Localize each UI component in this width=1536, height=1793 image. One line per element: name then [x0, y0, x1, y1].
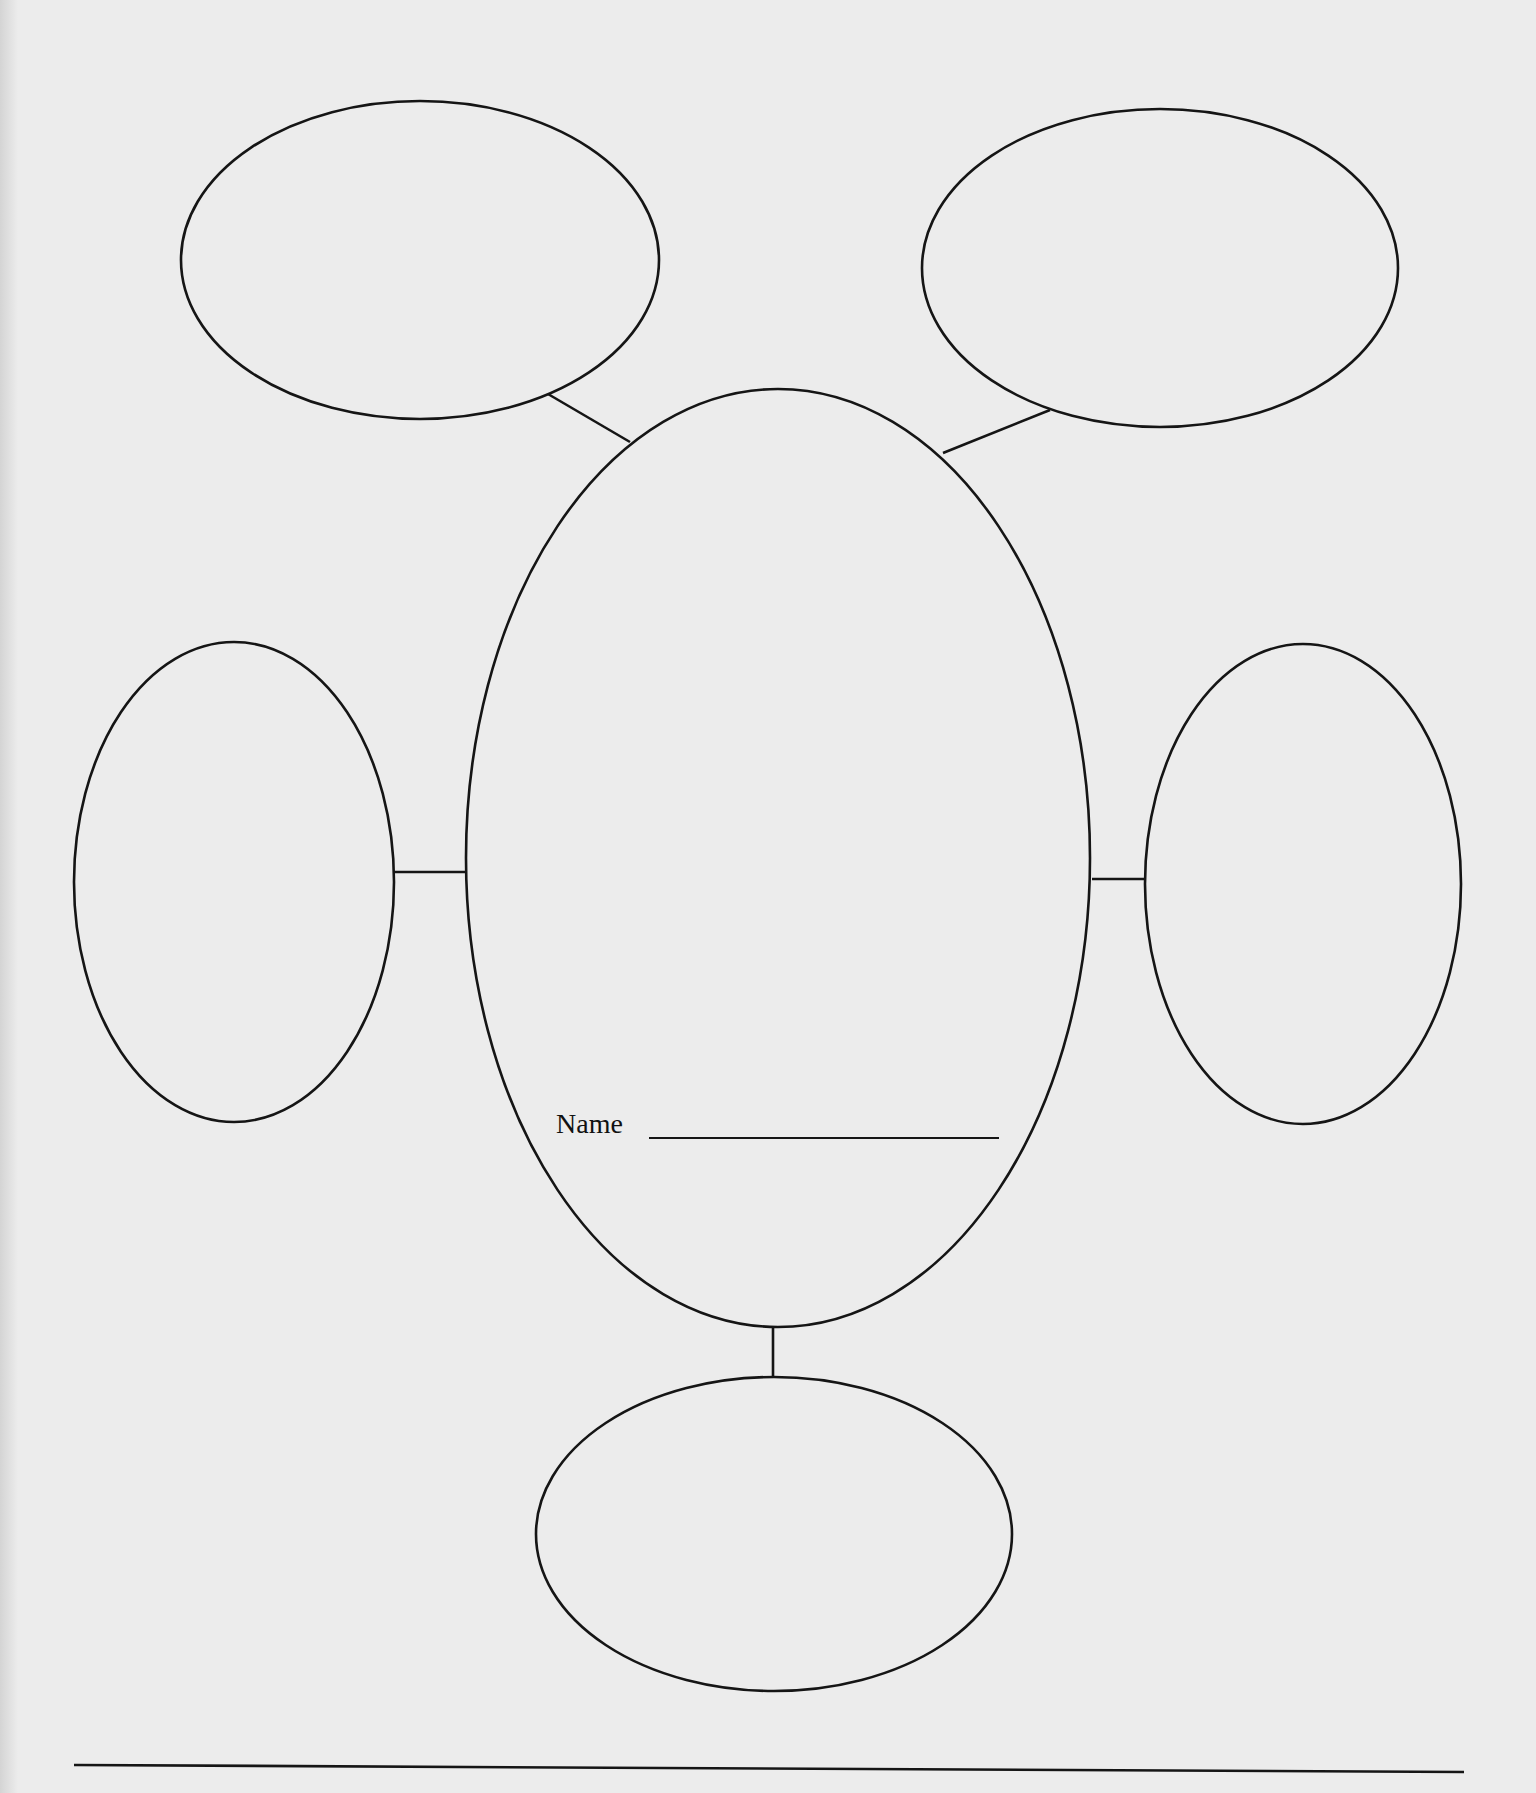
node-center[interactable] — [466, 389, 1090, 1327]
node-top-right[interactable] — [922, 109, 1398, 427]
node-top-left[interactable] — [181, 101, 659, 419]
node-left[interactable] — [74, 642, 394, 1122]
name-blank-line[interactable] — [649, 1137, 999, 1139]
bottom-rule — [74, 1765, 1464, 1772]
name-label: Name — [556, 1108, 623, 1140]
node-right[interactable] — [1145, 644, 1461, 1124]
node-bottom[interactable] — [536, 1377, 1012, 1691]
connector-top-left — [548, 394, 630, 442]
connector-top-right — [943, 410, 1050, 453]
web-diagram — [0, 0, 1536, 1793]
